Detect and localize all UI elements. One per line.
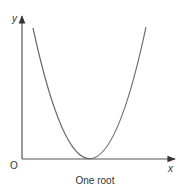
x-axis-label: x bbox=[167, 163, 174, 174]
one-root-diagram: y x O One root bbox=[0, 0, 188, 189]
caption: One root bbox=[76, 175, 115, 186]
parabola-curve bbox=[33, 27, 146, 159]
y-axis-label: y bbox=[11, 13, 18, 24]
origin-label: O bbox=[10, 160, 18, 171]
